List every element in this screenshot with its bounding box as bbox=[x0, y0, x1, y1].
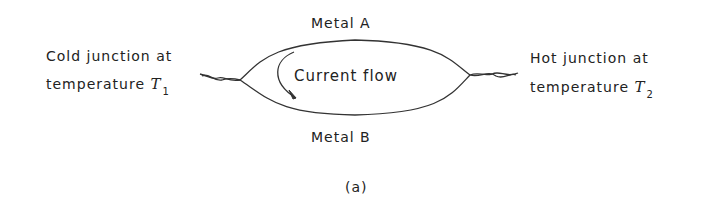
cold-junction-line2: temperature T1 bbox=[46, 77, 170, 92]
cold-junction-twist bbox=[200, 74, 240, 80]
hot-junction-line1: Hot junction at bbox=[530, 51, 649, 65]
temperature-var: T bbox=[634, 78, 645, 96]
hot-junction-twist bbox=[470, 73, 518, 77]
hot-junction-line2: temperature T2 bbox=[530, 80, 654, 95]
temperature-subscript: 2 bbox=[646, 89, 653, 100]
temperature-var: T bbox=[150, 75, 161, 93]
cold-junction-line1: Cold junction at bbox=[46, 49, 172, 63]
metal-b-label: Metal B bbox=[311, 130, 371, 144]
current-flow-label: Current flow bbox=[294, 69, 398, 84]
metal-a-label: Metal A bbox=[311, 16, 371, 30]
figure-caption: (a) bbox=[345, 180, 368, 194]
temperature-subscript: 1 bbox=[162, 86, 169, 97]
